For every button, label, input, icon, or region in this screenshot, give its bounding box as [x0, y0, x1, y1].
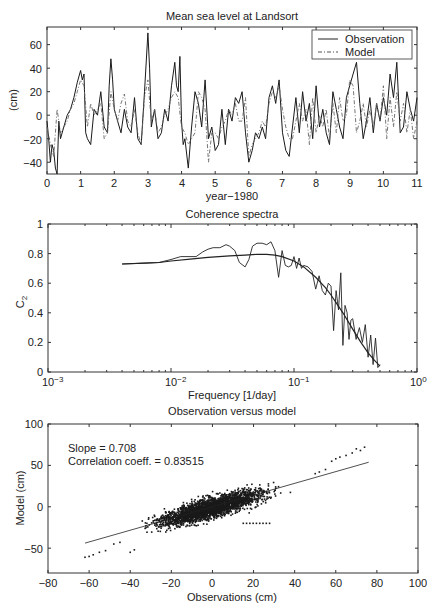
scatter-point — [172, 520, 174, 522]
scatter-point — [157, 530, 159, 532]
scatter-point — [215, 510, 217, 512]
scatter-point — [242, 492, 244, 494]
scatter-point — [160, 517, 162, 519]
scatter-point — [234, 496, 236, 498]
x-tick-label: −80 — [39, 577, 58, 589]
scatter-point — [184, 521, 186, 523]
scatter-point — [88, 556, 90, 558]
scatter-point — [165, 521, 167, 523]
x-tick-label: 6 — [246, 177, 252, 189]
scatter-point — [265, 500, 267, 502]
x-tick-label: 10 — [377, 177, 389, 189]
scatter-point — [193, 516, 195, 518]
scatter-point — [246, 489, 248, 491]
scatter-point — [231, 504, 233, 506]
x-tick-label: −40 — [121, 577, 140, 589]
scatter-point — [145, 522, 147, 524]
scatter-point — [179, 507, 181, 509]
scatter-point — [160, 522, 162, 524]
scatter-point — [231, 495, 233, 497]
scatter-point — [268, 485, 270, 487]
scatter-point — [233, 498, 235, 500]
scatter-point — [205, 519, 207, 521]
scatter-point — [92, 554, 94, 556]
scatter-point — [172, 523, 174, 525]
scatter-point — [255, 487, 257, 489]
scatter-point — [216, 518, 218, 520]
scatter-point — [188, 511, 190, 513]
scatter-point — [201, 516, 203, 518]
scatter-point — [208, 498, 210, 500]
scatter-point — [196, 525, 198, 527]
scatter-point — [274, 493, 276, 495]
scatter-point — [204, 510, 206, 512]
sea-level-x-tick-labels: 0 1 2 3 4 5 6 7 8 9 10 11 — [44, 177, 423, 189]
scatter-point — [194, 499, 196, 501]
x-tick-label: −20 — [162, 577, 181, 589]
scatter-point — [234, 490, 236, 492]
coherence-title: Coherence spectra — [186, 208, 280, 220]
scatter-x-tick-labels: −80 −60 −40 −20 0 20 40 60 80 100 — [39, 577, 428, 589]
scatter-point — [205, 513, 207, 515]
scatter-point — [185, 526, 187, 528]
scatter-point — [158, 526, 160, 528]
scatter-point — [266, 523, 268, 525]
scatter-point — [250, 493, 252, 495]
scatter-point — [156, 524, 158, 526]
scatter-point — [240, 490, 242, 492]
x-tick-label: 9 — [347, 177, 353, 189]
scatter-point — [154, 524, 156, 526]
coherence-x-tick-labels: 10−3 10−2 10−1 100 — [42, 375, 427, 388]
scatter-point — [176, 523, 178, 525]
scatter-point — [280, 492, 282, 494]
scatter-point — [222, 505, 224, 507]
scatter-point — [216, 516, 218, 518]
scatter-point — [217, 507, 219, 509]
scatter-point — [265, 502, 267, 504]
scatter-point — [197, 507, 199, 509]
scatter-point — [247, 508, 249, 510]
sea-level-plot: Mean sea level at Landsort 0 1 2 3 4 5 6… — [7, 10, 423, 202]
scatter-point — [210, 499, 212, 501]
scatter-point — [237, 489, 239, 491]
scatter-point — [270, 497, 272, 499]
scatter-point — [364, 446, 366, 448]
coherence-y-tick-labels: 1 0.8 0.6 0.4 0.2 0 — [28, 218, 43, 378]
scatter-point — [278, 486, 280, 488]
scatter-point — [165, 515, 167, 517]
scatter-point — [245, 491, 247, 493]
scatter-point — [242, 504, 244, 506]
scatter-point — [163, 522, 165, 524]
scatter-point — [356, 448, 358, 450]
scatter-point — [165, 517, 167, 519]
scatter-point — [225, 509, 227, 511]
scatter-point — [214, 504, 216, 506]
scatter-point — [148, 518, 150, 520]
scatter-point — [191, 524, 193, 526]
scatter-point — [225, 500, 227, 502]
scatter-point — [183, 524, 185, 526]
scatter-point — [216, 501, 218, 503]
scatter-point — [221, 499, 223, 501]
scatter-point — [241, 488, 243, 490]
scatter-point — [194, 508, 196, 510]
scatter-point — [244, 509, 246, 511]
scatter-point — [237, 497, 239, 499]
scatter-point — [208, 512, 210, 514]
scatter-point — [258, 496, 260, 498]
coherence-raw-line — [122, 242, 380, 368]
scatter-point — [319, 471, 321, 473]
scatter-point — [205, 515, 207, 517]
scatter-point — [236, 509, 238, 511]
scatter-point — [194, 525, 196, 527]
scatter-point — [246, 523, 248, 525]
scatter-point — [257, 490, 259, 492]
scatter-point — [223, 498, 225, 500]
scatter-point — [208, 520, 210, 522]
scatter-point — [212, 503, 214, 505]
scatter-point — [105, 550, 107, 552]
scatter-point — [238, 488, 240, 490]
scatter-point — [176, 525, 178, 527]
scatter-point — [166, 530, 168, 532]
scatter-point — [257, 498, 259, 500]
